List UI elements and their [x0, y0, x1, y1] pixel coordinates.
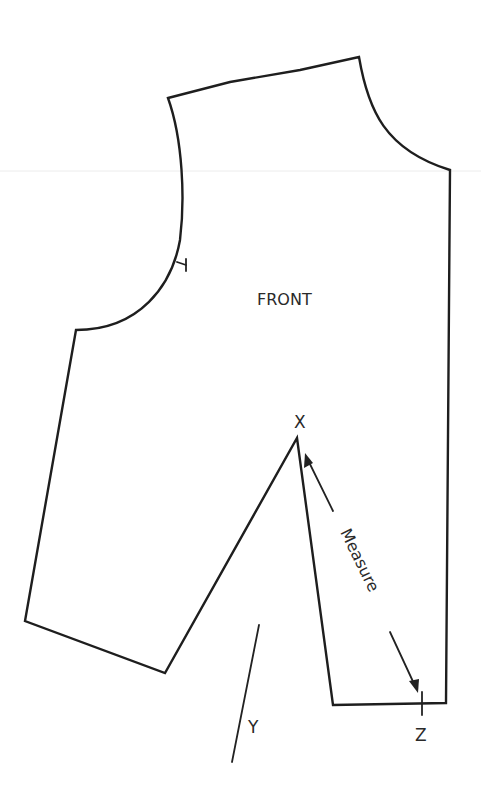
pattern-diagram: FRONT X Measure Z Y [0, 0, 481, 801]
point-label-y: Y [247, 717, 259, 737]
point-label-z: Z [415, 725, 427, 745]
armhole-notch [177, 259, 186, 271]
front-bodice-outline [25, 57, 450, 705]
arrow-down-icon [390, 632, 419, 693]
arrow-up-icon [304, 453, 333, 511]
point-label-x: X [294, 412, 306, 432]
y-guide-line [232, 625, 259, 762]
measure-annotation: Measure [336, 525, 383, 594]
piece-label: FRONT [257, 290, 312, 309]
